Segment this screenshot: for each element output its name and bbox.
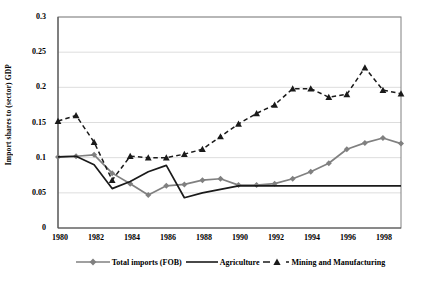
series-marker-2 bbox=[361, 64, 368, 70]
legend-label-mining-manufacturing: Mining and Manufacturing bbox=[291, 258, 385, 267]
series-marker-0 bbox=[217, 176, 223, 182]
series-marker-0 bbox=[163, 183, 169, 189]
series-layer bbox=[55, 64, 405, 198]
series-marker-2 bbox=[271, 102, 278, 108]
gridlines bbox=[58, 17, 401, 193]
legend-entry-agriculture[interactable]: Agriculture bbox=[186, 257, 260, 267]
legend-swatch-diamond-line bbox=[76, 257, 110, 267]
series-marker-0 bbox=[380, 135, 386, 141]
legend-entry-mining-manufacturing[interactable]: Mining and Manufacturing bbox=[263, 257, 385, 267]
legend: Total imports (FOB) Agriculture Mining a… bbox=[58, 254, 403, 270]
series-marker-2 bbox=[289, 85, 296, 91]
plot-area bbox=[0, 0, 435, 282]
series-marker-2 bbox=[73, 112, 80, 118]
series-marker-0 bbox=[199, 177, 205, 183]
series-marker-2 bbox=[199, 146, 206, 152]
legend-label-agriculture: Agriculture bbox=[220, 258, 260, 267]
series-line-1 bbox=[58, 156, 401, 198]
series-marker-0 bbox=[308, 169, 314, 175]
chart-figure: Import shares to (sector) GDP 0.3 0.25 0… bbox=[0, 0, 435, 282]
legend-swatch-solid-line bbox=[186, 257, 218, 267]
series-marker-2 bbox=[307, 85, 314, 91]
legend-entry-total-imports[interactable]: Total imports (FOB) bbox=[76, 257, 182, 267]
legend-swatch-dashed-triangle bbox=[263, 257, 289, 267]
legend-label-total-imports: Total imports (FOB) bbox=[112, 258, 182, 267]
series-marker-0 bbox=[362, 140, 368, 146]
series-marker-0 bbox=[290, 176, 296, 182]
series-marker-0 bbox=[398, 141, 404, 147]
series-marker-0 bbox=[181, 181, 187, 187]
series-marker-2 bbox=[217, 133, 224, 139]
series-line-2 bbox=[58, 68, 401, 181]
series-marker-2 bbox=[235, 121, 242, 127]
